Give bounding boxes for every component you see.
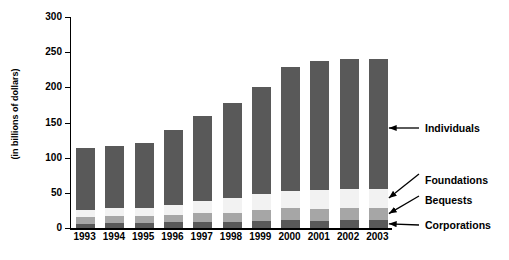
bar-segment-foundations[interactable] bbox=[164, 205, 183, 215]
bar-segment-bequests[interactable] bbox=[135, 216, 154, 223]
bar-segment-individuals[interactable] bbox=[164, 130, 183, 205]
bar-segment-individuals[interactable] bbox=[193, 116, 212, 201]
bar-segment-foundations[interactable] bbox=[193, 201, 212, 212]
bar-segment-corporations[interactable] bbox=[310, 221, 329, 228]
x-axis-label-1995: 1995 bbox=[129, 232, 158, 242]
x-axis-line bbox=[70, 228, 392, 230]
bar-1993[interactable] bbox=[76, 148, 95, 228]
bar-segment-individuals[interactable] bbox=[135, 143, 154, 208]
bar-2002[interactable] bbox=[340, 59, 359, 229]
bar-segment-foundations[interactable] bbox=[135, 208, 154, 216]
y-axis-tick-label: 250 bbox=[26, 47, 62, 57]
x-axis-label-1997: 1997 bbox=[187, 232, 216, 242]
bar-1999[interactable] bbox=[252, 87, 271, 228]
x-axis-label-1994: 1994 bbox=[99, 232, 128, 242]
bar-segment-individuals[interactable] bbox=[281, 67, 300, 191]
y-axis-tick-label: 300 bbox=[26, 12, 62, 22]
bar-segment-individuals[interactable] bbox=[340, 59, 359, 190]
bar-segment-bequests[interactable] bbox=[164, 215, 183, 223]
x-axis-label-2000: 2000 bbox=[275, 232, 304, 242]
bar-segment-individuals[interactable] bbox=[252, 87, 271, 194]
x-axis-label-1999: 1999 bbox=[246, 232, 275, 242]
bar-segment-bequests[interactable] bbox=[252, 210, 271, 221]
y-axis-tick-label: 100 bbox=[26, 153, 62, 163]
bar-segment-corporations[interactable] bbox=[281, 220, 300, 228]
bar-segment-corporations[interactable] bbox=[105, 223, 124, 228]
bar-segment-foundations[interactable] bbox=[310, 190, 329, 209]
x-axis-label-2003: 2003 bbox=[363, 232, 392, 242]
annotation-label-bequests: Bequests bbox=[425, 195, 472, 206]
stacked-bar-chart: (in billions of dollars) 050100150200250… bbox=[0, 0, 509, 260]
bar-segment-corporations[interactable] bbox=[223, 222, 242, 228]
bar-1995[interactable] bbox=[135, 143, 154, 228]
bar-1996[interactable] bbox=[164, 130, 183, 228]
bar-segment-corporations[interactable] bbox=[193, 222, 212, 228]
annotation-arrow-bequests bbox=[389, 196, 419, 214]
bar-segment-corporations[interactable] bbox=[369, 220, 388, 228]
bar-segment-bequests[interactable] bbox=[340, 208, 359, 220]
bar-1994[interactable] bbox=[105, 146, 124, 228]
bar-segment-bequests[interactable] bbox=[369, 208, 388, 220]
annotation-arrow-foundations bbox=[389, 174, 419, 198]
annotation-label-corporations: Corporations bbox=[425, 220, 491, 231]
plot-area bbox=[70, 17, 392, 228]
bar-segment-foundations[interactable] bbox=[369, 189, 388, 208]
bar-segment-individuals[interactable] bbox=[223, 103, 242, 199]
y-axis-tick-label: 0 bbox=[26, 223, 62, 233]
bar-segment-individuals[interactable] bbox=[369, 59, 388, 189]
bar-2003[interactable] bbox=[369, 59, 388, 229]
bar-segment-bequests[interactable] bbox=[310, 209, 329, 221]
x-axis-label-2002: 2002 bbox=[333, 232, 362, 242]
bar-2000[interactable] bbox=[281, 67, 300, 228]
y-axis-tick-label: 200 bbox=[26, 82, 62, 92]
bar-segment-bequests[interactable] bbox=[105, 216, 124, 223]
bar-segment-foundations[interactable] bbox=[76, 210, 95, 217]
x-axis-label-2001: 2001 bbox=[304, 232, 333, 242]
bar-segment-bequests[interactable] bbox=[193, 213, 212, 222]
bar-segment-corporations[interactable] bbox=[340, 220, 359, 228]
x-axis-label-1996: 1996 bbox=[158, 232, 187, 242]
bar-segment-foundations[interactable] bbox=[252, 194, 271, 210]
x-axis-label-1998: 1998 bbox=[216, 232, 245, 242]
bar-segment-foundations[interactable] bbox=[281, 191, 300, 209]
annotation-label-foundations: Foundations bbox=[425, 175, 488, 186]
bar-segment-individuals[interactable] bbox=[105, 146, 124, 209]
bar-segment-corporations[interactable] bbox=[164, 222, 183, 228]
annotation-label-individuals: Individuals bbox=[425, 123, 480, 134]
bar-segment-bequests[interactable] bbox=[223, 213, 242, 222]
y-axis-tick-label: 150 bbox=[26, 118, 62, 128]
bar-segment-foundations[interactable] bbox=[340, 189, 359, 208]
annotation-arrow-corporations bbox=[389, 224, 419, 225]
bar-1998[interactable] bbox=[223, 103, 242, 228]
bar-2001[interactable] bbox=[310, 61, 329, 228]
bar-segment-individuals[interactable] bbox=[310, 61, 329, 190]
y-axis-tick-label: 50 bbox=[26, 188, 62, 198]
bar-segment-individuals[interactable] bbox=[76, 148, 95, 211]
bar-segment-bequests[interactable] bbox=[281, 208, 300, 220]
bar-segment-corporations[interactable] bbox=[135, 223, 154, 228]
y-axis-title: (in billions of dollars) bbox=[2, 0, 26, 228]
x-axis-label-1993: 1993 bbox=[70, 232, 99, 242]
bar-segment-foundations[interactable] bbox=[223, 198, 242, 212]
bar-segment-foundations[interactable] bbox=[105, 208, 124, 216]
y-axis-title-text: (in billions of dollars) bbox=[9, 69, 19, 160]
bar-segment-corporations[interactable] bbox=[76, 224, 95, 228]
bar-1997[interactable] bbox=[193, 116, 212, 228]
bar-segment-corporations[interactable] bbox=[252, 221, 271, 228]
